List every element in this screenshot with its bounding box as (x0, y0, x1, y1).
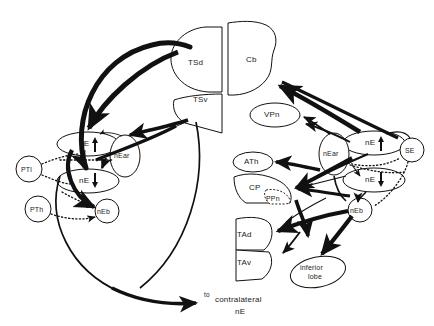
node-label-inferior-lobe-line1: inferior (300, 264, 323, 271)
edge-tsd-to-ne-up-left (89, 52, 178, 128)
edge-to-tav (283, 232, 300, 253)
node-label-ne-down-right: nE (365, 176, 375, 184)
node-label-tsd: TSd (188, 59, 203, 67)
edge-outer-curve-b (140, 122, 199, 288)
node-label-cp: CP (249, 184, 261, 192)
caption-contralateral: contralateral (215, 296, 262, 304)
edge-neb-right-to-tad (278, 211, 348, 231)
edge-to-contralateral-ne (112, 288, 196, 304)
node-label-ne-down-left: nE (79, 177, 89, 185)
node-label-ptl: PTl (21, 166, 32, 173)
node-label-tsv: TSv (193, 96, 208, 104)
node-label-ath: ATh (244, 158, 259, 166)
diagram-canvas (0, 0, 434, 326)
edge-right-to-ath (276, 162, 320, 170)
edge-neb-right-to-cp (298, 189, 350, 196)
node-label-near-right: nEar (323, 150, 339, 157)
node-label-ne-up-right: nE (365, 139, 375, 147)
node-label-neb-right: nEb (350, 207, 363, 214)
node-label-se: SE (405, 147, 415, 154)
caption-to: to (204, 292, 210, 299)
node-label-neb-left: nEb (97, 208, 110, 215)
edge-cp-hook-down (296, 200, 308, 236)
node-label-pth: PTh (30, 206, 43, 213)
node-label-vpn: VPn (264, 111, 280, 119)
node-label-cb: Cb (246, 56, 257, 64)
edge-se-to-cb (282, 82, 398, 138)
node-inferior-lobe-shape (287, 252, 348, 293)
edge-ptl-dotted-to-ne-left (42, 154, 78, 164)
caption-ne: nE (235, 308, 245, 316)
node-label-tav: TAv (237, 259, 251, 267)
node-label-ppn: PPn (266, 195, 280, 202)
node-label-tad: TAd (237, 231, 252, 239)
circuit-diagram: TSd TSv Cb VPn ATh CP PPn TAd TAv inferi… (0, 0, 434, 326)
node-label-near-left: nEar (114, 152, 130, 159)
node-label-inferior-lobe-line2: lobe (308, 273, 322, 280)
edge-neb-right-to-inferior-lobe (322, 216, 352, 254)
node-label-ne-up-left: nE (79, 140, 89, 148)
